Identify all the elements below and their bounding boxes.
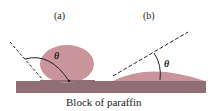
theta-a: θ (54, 50, 59, 61)
label-b: (b) (143, 10, 155, 21)
label-a: (a) (54, 10, 65, 21)
caption: Block of paraffin (66, 96, 142, 108)
tangent-line-b (113, 32, 188, 76)
diagram (0, 0, 217, 111)
paraffin-block (16, 81, 206, 93)
tangent-line-a (10, 42, 43, 80)
droplet-b (113, 72, 205, 82)
theta-b: θ (164, 58, 169, 69)
